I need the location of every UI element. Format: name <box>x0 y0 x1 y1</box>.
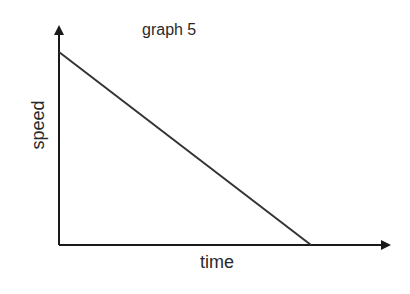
chart-canvas <box>0 0 410 294</box>
chart: graph 5 time speed <box>0 0 410 294</box>
chart-title: graph 5 <box>142 21 196 39</box>
data-line <box>59 52 311 245</box>
x-axis-label: time <box>200 252 234 273</box>
y-axis-label: speed <box>28 100 49 149</box>
